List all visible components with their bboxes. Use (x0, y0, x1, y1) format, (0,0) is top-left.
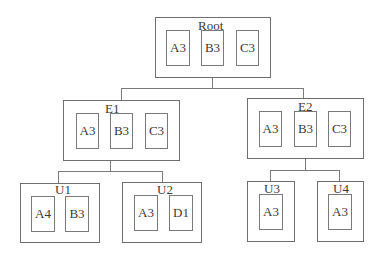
edge-root-horizontal (121, 88, 304, 89)
node-e1-item-c3: C3 (145, 113, 168, 149)
node-u1: U1 A4 B3 (20, 183, 100, 243)
node-u1-label: U1 (55, 183, 71, 196)
node-e2: E2 A3 B3 C3 (247, 98, 364, 159)
node-e1: E1 A3 B3 C3 (63, 100, 180, 161)
node-u1-item-a4: A4 (31, 196, 55, 232)
edge-e2-horizontal (270, 170, 339, 171)
node-u4: U4 A3 (317, 181, 364, 242)
node-u1-item-b3: B3 (65, 196, 89, 232)
node-u3-item-a3: A3 (259, 194, 283, 230)
edge-to-u4 (339, 170, 340, 181)
node-root-item-b3: B3 (201, 30, 224, 66)
node-u2-item-a3: A3 (134, 195, 158, 231)
node-u2: U2 A3 D1 (122, 182, 202, 243)
edge-to-e1 (121, 88, 122, 100)
node-root: Root A3 B3 C3 (155, 17, 271, 78)
edge-e2-down (305, 158, 306, 170)
edge-e1-horizontal (58, 171, 162, 172)
node-u4-item-a3: A3 (328, 194, 352, 230)
edge-to-e2 (303, 88, 304, 98)
node-e2-item-a3: A3 (259, 111, 282, 147)
node-e1-item-a3: A3 (76, 113, 99, 149)
edge-root-down (212, 77, 213, 88)
node-e2-item-c3: C3 (328, 111, 351, 147)
edge-to-u3 (270, 170, 271, 181)
node-e2-item-b3: B3 (294, 111, 317, 147)
edge-to-u2 (162, 171, 163, 182)
node-e1-item-b3: B3 (110, 113, 133, 149)
node-root-item-c3: C3 (236, 30, 259, 66)
node-u3: U3 A3 (247, 181, 295, 242)
node-root-item-a3: A3 (166, 30, 190, 66)
node-u2-item-d1: D1 (169, 195, 193, 231)
edge-e1-down (110, 160, 111, 171)
